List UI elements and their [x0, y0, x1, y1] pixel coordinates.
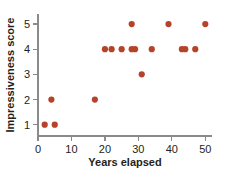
data-point [52, 122, 58, 128]
x-axis: 01020304050 [35, 136, 212, 155]
x-tick-labels: 01020304050 [35, 143, 211, 155]
y-tick-marks [33, 24, 38, 125]
x-tick-label: 50 [199, 143, 211, 155]
y-axis: 12345 [24, 14, 38, 136]
data-point [139, 71, 145, 77]
x-axis-title: Years elapsed [88, 156, 161, 168]
data-point [109, 46, 115, 52]
x-tick-label: 0 [35, 143, 41, 155]
y-tick-label: 5 [24, 18, 30, 30]
x-tick-label: 40 [166, 143, 178, 155]
data-point [165, 21, 171, 27]
data-point [48, 96, 54, 102]
x-tick-label: 10 [65, 143, 77, 155]
data-point [102, 46, 108, 52]
data-point [149, 46, 155, 52]
data-point [119, 46, 125, 52]
data-point [92, 96, 98, 102]
scatter-plot-figure: 12345 01020304050 Years elapsed Impressi… [0, 0, 230, 174]
y-axis-title: Impressiveness score [4, 18, 16, 133]
data-point [42, 122, 48, 128]
x-tick-label: 20 [99, 143, 111, 155]
plot-canvas: 12345 01020304050 Years elapsed Impressi… [0, 0, 230, 174]
y-tick-label: 2 [24, 94, 30, 106]
data-points [42, 21, 209, 128]
data-point [182, 46, 188, 52]
y-tick-label: 1 [24, 119, 30, 131]
data-point [129, 21, 135, 27]
y-tick-label: 4 [24, 43, 30, 55]
y-tick-labels: 12345 [24, 18, 30, 131]
data-point [202, 21, 208, 27]
data-point [132, 46, 138, 52]
x-tick-marks [38, 136, 205, 141]
x-tick-label: 30 [132, 143, 144, 155]
y-tick-label: 3 [24, 68, 30, 80]
data-point [192, 46, 198, 52]
